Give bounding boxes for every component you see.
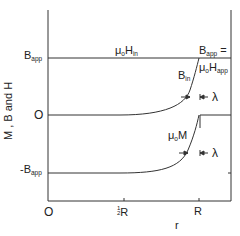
label-b-in: Bin bbox=[178, 70, 190, 83]
label-b-app-eq: Bapp = bbox=[199, 45, 227, 58]
label-mu-m: μoM bbox=[168, 130, 187, 143]
b-in-curve bbox=[48, 58, 199, 115]
y-tick-neg-b-app: -Bapp bbox=[20, 164, 42, 177]
label-lambda-top: λ bbox=[212, 91, 218, 103]
x-axis-label: r bbox=[175, 220, 179, 231]
lambda-arrows-bottom bbox=[179, 150, 208, 156]
label-lambda-bottom: λ bbox=[212, 147, 218, 159]
y-axis-label: M , B and H bbox=[2, 82, 14, 140]
x-tick-half-r: 12R bbox=[117, 206, 128, 218]
y-tick-b-app: Bapp bbox=[24, 50, 42, 63]
y-tick-origin: O bbox=[34, 109, 43, 121]
label-mu-h-app: μoHapp bbox=[199, 62, 228, 75]
x-tick-origin: O bbox=[44, 206, 53, 218]
mu-m-curve bbox=[48, 115, 199, 173]
o-step bbox=[200, 115, 231, 128]
label-mu-h-in: μoHin bbox=[115, 45, 138, 58]
x-tick-r: R bbox=[194, 206, 202, 217]
